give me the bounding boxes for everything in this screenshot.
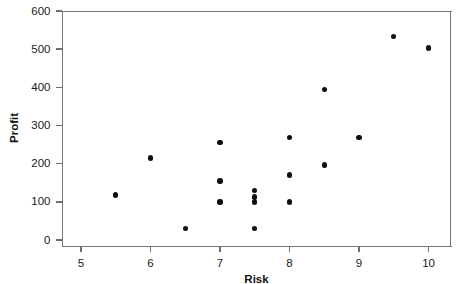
x-tick-label: 7 bbox=[200, 257, 240, 269]
y-tick-mark bbox=[56, 125, 62, 126]
x-tick-label: 8 bbox=[270, 257, 310, 269]
plot-area bbox=[62, 11, 452, 247]
y-tick-label: 300 bbox=[31, 119, 50, 131]
data-point bbox=[426, 45, 431, 50]
plot-frame-right bbox=[450, 11, 451, 247]
y-tick-label: 100 bbox=[31, 195, 50, 207]
plot-frame-top bbox=[62, 11, 452, 12]
data-point bbox=[322, 162, 327, 167]
x-tick-label: 10 bbox=[409, 257, 449, 269]
scatter-plot-figure: 0100200300400500600 5678910 Profit Risk bbox=[0, 0, 460, 284]
x-tick-mark bbox=[428, 246, 429, 252]
data-point bbox=[217, 199, 222, 204]
y-tick-mark bbox=[56, 10, 62, 11]
data-point bbox=[217, 178, 222, 183]
x-tick-label: 6 bbox=[130, 257, 170, 269]
y-tick-mark bbox=[56, 163, 62, 164]
data-point bbox=[113, 192, 118, 197]
y-tick-mark bbox=[56, 87, 62, 88]
data-point bbox=[217, 140, 222, 145]
x-tick-mark bbox=[289, 246, 290, 252]
y-tick-label: 0 bbox=[44, 234, 50, 246]
data-point bbox=[287, 172, 292, 177]
y-tick-mark bbox=[56, 48, 62, 49]
data-point bbox=[148, 155, 153, 160]
data-point bbox=[322, 87, 327, 92]
data-point bbox=[287, 199, 292, 204]
x-tick-label: 9 bbox=[339, 257, 379, 269]
y-tick-mark bbox=[56, 239, 62, 240]
data-point bbox=[252, 199, 257, 204]
y-tick-label: 500 bbox=[31, 43, 50, 55]
y-tick-mark bbox=[56, 201, 62, 202]
y-tick-label: 600 bbox=[31, 5, 50, 17]
y-axis-title: Profit bbox=[8, 98, 20, 158]
y-tick-label: 400 bbox=[31, 81, 50, 93]
x-tick-mark bbox=[358, 246, 359, 252]
x-tick-mark bbox=[80, 246, 81, 252]
x-tick-mark bbox=[150, 246, 151, 252]
x-tick-label: 5 bbox=[61, 257, 101, 269]
x-axis-title: Risk bbox=[197, 273, 317, 284]
y-tick-label: 200 bbox=[31, 157, 50, 169]
x-tick-mark bbox=[219, 246, 220, 252]
